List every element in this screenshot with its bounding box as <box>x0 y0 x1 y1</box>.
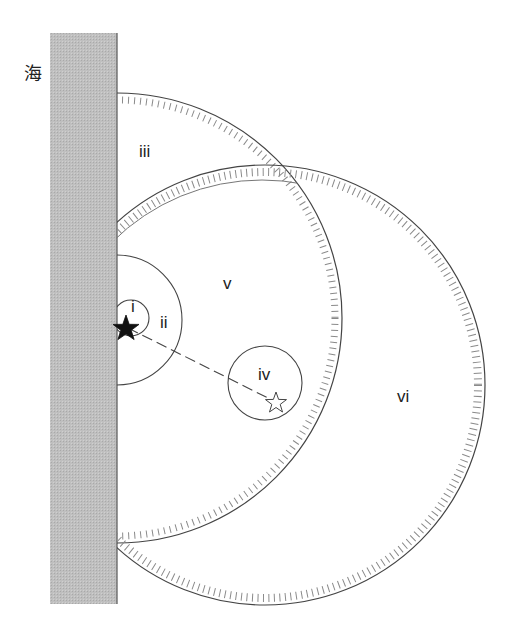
region-label-ii: ii <box>160 314 168 331</box>
sea-label: 海 <box>24 65 42 83</box>
white-star-icon <box>266 392 287 412</box>
diagram-canvas <box>0 0 509 634</box>
region-label-i: i <box>131 298 135 315</box>
region-label-v: v <box>223 275 232 292</box>
region-label-iv: iv <box>258 366 270 383</box>
region-label-vi: vi <box>397 388 409 405</box>
dashed-connector <box>128 328 276 402</box>
sea-wall <box>50 33 117 604</box>
region-label-iii: iii <box>139 143 150 160</box>
